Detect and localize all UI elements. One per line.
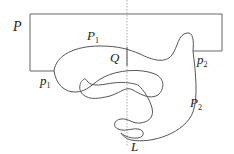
label-p1: p1	[39, 73, 51, 90]
label-Q: Q	[110, 50, 120, 65]
label-p2: p2	[196, 52, 208, 69]
curve-P2	[54, 51, 196, 141]
label-p1-sub: 1	[47, 81, 51, 90]
label-P2-sub: 2	[198, 103, 202, 112]
polygon-diagram: P P1 Q p1 p2 P2 L	[0, 0, 234, 154]
label-L: L	[130, 139, 138, 154]
label-P1: P1	[86, 28, 99, 45]
curve-P1	[54, 33, 193, 71]
label-P2-base: P	[189, 95, 198, 110]
label-P1-base: P	[86, 28, 95, 43]
label-P1-sub: 1	[95, 36, 99, 45]
label-P2: P2	[189, 95, 202, 112]
label-P: P	[12, 19, 22, 34]
label-p2-sub: 2	[204, 60, 208, 69]
